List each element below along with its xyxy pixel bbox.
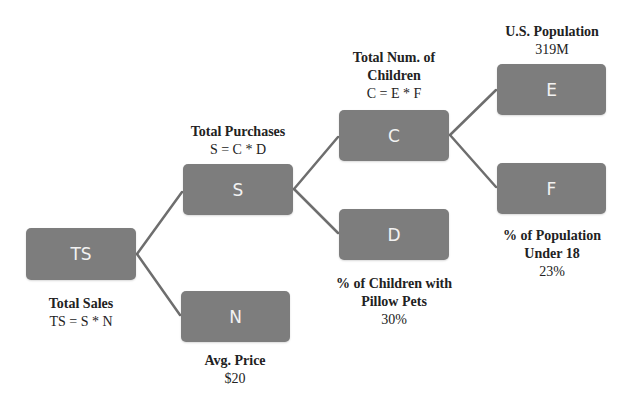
label-f-value: 23% [477,263,627,281]
label-c: Total Num. of Children C = E * F [319,49,469,103]
label-d-value: 30% [314,311,474,329]
label-c-title-1: Total Num. of [319,49,469,67]
label-ts-value: TS = S * N [6,313,156,331]
node-e: E [497,64,606,115]
label-n: Avg. Price $20 [160,352,310,388]
label-c-title-2: Children [319,67,469,85]
link-c-f [450,135,496,187]
label-n-value: $20 [160,370,310,388]
node-s-id: S [233,180,244,200]
node-s: S [183,164,293,215]
label-d-title-2: Pillow Pets [314,293,474,311]
node-f: F [497,163,606,214]
node-e-id: E [546,80,557,100]
link-s-d [294,189,338,233]
label-f-title-2: Under 18 [477,245,627,263]
label-e-value: 319M [477,41,627,59]
label-c-value: C = E * F [319,85,469,103]
label-e: U.S. Population 319M [477,23,627,59]
label-s-value: S = C * D [163,141,313,159]
node-d: D [339,209,449,260]
node-c-id: C [388,126,400,146]
label-s-title: Total Purchases [163,123,313,141]
node-n-id: N [229,307,242,327]
node-c: C [339,110,449,161]
node-ts-id: TS [70,244,91,264]
node-ts: TS [26,228,136,280]
node-f-id: F [547,179,557,199]
label-ts-title: Total Sales [6,295,156,313]
label-s: Total Purchases S = C * D [163,123,313,159]
label-ts: Total Sales TS = S * N [6,295,156,331]
label-d: % of Children with Pillow Pets 30% [314,275,474,329]
label-n-title: Avg. Price [160,352,310,370]
node-d-id: D [387,225,400,245]
link-ts-s [137,192,182,254]
label-f-title-1: % of Population [477,227,627,245]
label-d-title-1: % of Children with [314,275,474,293]
label-f: % of Population Under 18 23% [477,227,627,281]
label-e-title: U.S. Population [477,23,627,41]
node-n: N [181,291,290,342]
